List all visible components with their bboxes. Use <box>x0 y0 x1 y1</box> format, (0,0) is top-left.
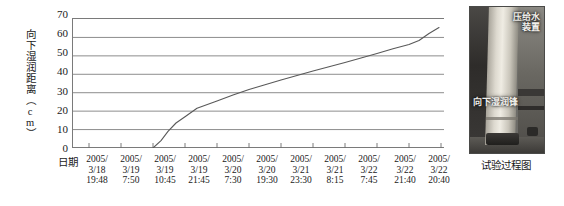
wetting-front-band <box>486 117 518 120</box>
experiment-photo: 压给水 装置 向下湿润锋 <box>469 6 545 154</box>
figure-root: 向下湿润距离（cm） 70 60 50 40 30 20 10 0 <box>0 0 564 206</box>
soil-column-base <box>486 133 519 145</box>
photo-overlay-top-line1: 压给水 <box>513 12 540 22</box>
experiment-photo-wrapper: 压给水 装置 向下湿润锋 <box>469 6 545 154</box>
y-axis-title: 向下湿润距离（cm） <box>21 14 39 154</box>
x-tick-label: 2005/ 3/22 20:40 <box>418 154 460 186</box>
y-tick-label: 10 <box>57 123 68 134</box>
x-tick-year: 2005/ <box>418 154 460 165</box>
y-tick-label: 20 <box>57 104 68 115</box>
y-tick-label: 50 <box>57 47 68 58</box>
photo-rail-lower <box>518 106 544 110</box>
x-axis-ticks <box>89 143 441 148</box>
y-tick-label: 70 <box>57 9 68 20</box>
chart-plot-area <box>72 18 444 148</box>
y-tick-label: 40 <box>57 66 68 77</box>
y-axis-tick-labels: 70 60 50 40 30 20 10 0 <box>42 14 70 148</box>
chart-svg <box>73 19 444 148</box>
x-tick-time: 20:40 <box>418 175 460 186</box>
y-tick-label: 0 <box>63 143 69 154</box>
gridlines <box>73 37 444 129</box>
photo-overlay-label-wetting-front: 向下湿润锋 <box>473 97 518 107</box>
x-axis-tick-labels: 2005/ 3/18 19:48 2005/ 3/19 7:50 2005/ 3… <box>72 154 444 196</box>
photo-caption: 试验过程图 <box>481 160 531 172</box>
y-tick-label: 30 <box>57 85 68 96</box>
photo-overlay-label-top: 压给水 装置 <box>513 12 540 32</box>
photo-rail <box>518 89 544 96</box>
x-tick-date: 3/22 <box>418 165 460 176</box>
photo-equipment-object <box>527 127 538 136</box>
y-tick-label: 60 <box>57 28 68 39</box>
photo-overlay-top-line2: 装置 <box>513 22 540 32</box>
